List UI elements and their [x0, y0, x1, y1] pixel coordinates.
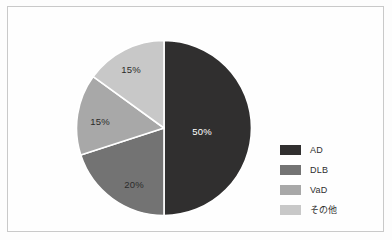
legend-swatch-icon-3 [280, 185, 301, 195]
legend-item-3[interactable]: VaD [280, 181, 376, 198]
legend-item-1[interactable]: AD [280, 141, 376, 158]
legend-label-1: AD [310, 145, 323, 155]
legend-item-2[interactable]: DLB [280, 161, 376, 178]
pie-slice-group [76, 41, 251, 216]
pie-svg: 50%20%15%15% [76, 40, 252, 216]
pie-slice-label-1: 50% [192, 126, 212, 137]
legend-swatch-icon-2 [280, 165, 301, 175]
pie-plot-area: 50%20%15%15% [76, 40, 252, 216]
legend-label-2: DLB [310, 165, 328, 175]
chart-legend: ADDLBVaDその他 [280, 141, 376, 221]
figure-border-frame: 50%20%15%15% ADDLBVaDその他 [7, 6, 384, 232]
legend-item-4[interactable]: その他 [280, 201, 376, 218]
legend-swatch-icon-1 [280, 145, 301, 155]
legend-label-4: その他 [310, 203, 338, 216]
pie-slice-label-4: 15% [121, 64, 141, 75]
pie-slice-label-3: 15% [90, 116, 110, 127]
pie-slice-label-2: 20% [124, 179, 144, 190]
legend-swatch-icon-4 [280, 205, 301, 215]
legend-label-3: VaD [310, 185, 327, 195]
pie-chart-figure: 50%20%15%15% ADDLBVaDその他 [0, 0, 392, 240]
